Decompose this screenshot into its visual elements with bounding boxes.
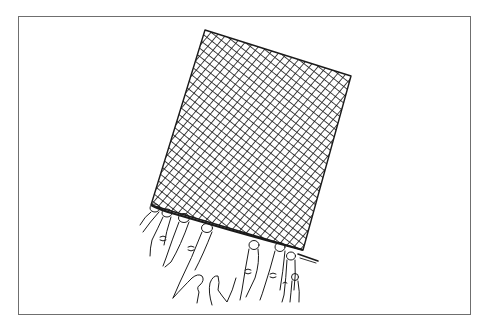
netting-needle	[298, 254, 318, 261]
figure-canvas	[0, 0, 489, 333]
right-hand	[240, 241, 299, 303]
mesh-panel	[140, 20, 370, 260]
net-illustration	[0, 0, 489, 333]
